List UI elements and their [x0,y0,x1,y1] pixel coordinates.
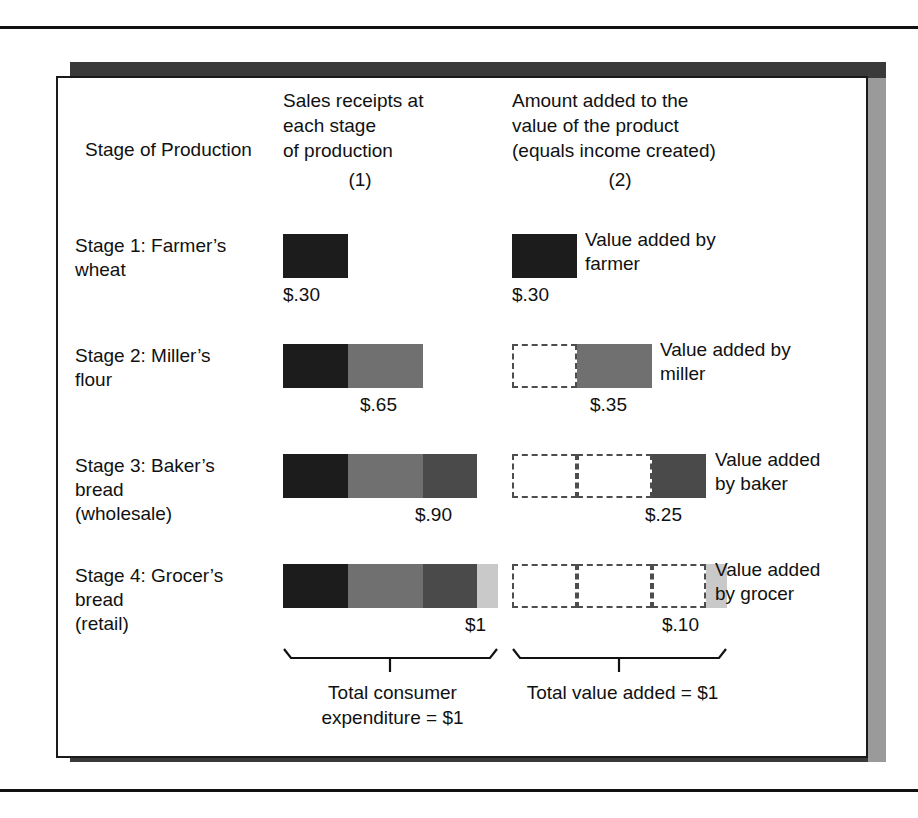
segment-placeholder-baker [652,564,706,608]
segment-grocer [477,564,499,608]
segment-placeholder-miller [577,564,652,608]
legend-baker: Value added by baker [715,448,820,496]
receipts-bar-stage-4 [283,564,498,608]
segment-farmer [283,234,348,278]
legend-farmer: Value added by farmer [585,228,716,276]
receipts-bar-stage-1 [283,234,498,278]
value-added-amount-stage-1: $.30 [512,284,549,306]
stage-label: Stage 4: Grocer’s bread (retail) [75,564,275,636]
stage-row: Stage 1: Farmer’s wheat $.30 $.30 Value … [0,228,918,328]
legend-grocer: Value added by grocer [715,558,820,606]
segment-miller [348,564,423,608]
total-value-added-label: Total value added = $1 [495,680,750,705]
header-column-1: Sales receipts at each stage of producti… [283,88,423,163]
brace-total-consumer-expenditure [283,648,498,674]
receipts-amount-stage-1: $.30 [283,284,320,306]
brace-total-value-added [512,648,727,674]
segment-placeholder-farmer [512,454,577,498]
segment-placeholder-farmer [512,564,577,608]
segment-farmer [283,454,348,498]
receipts-amount-stage-4: $1 [465,614,486,636]
segment-miller [348,344,423,388]
stage-label: Stage 3: Baker’s bread (wholesale) [75,454,275,526]
stage-label: Stage 2: Miller’s flour [75,344,275,392]
header-stage-of-production: Stage of Production [85,137,252,162]
legend-miller: Value added by miller [660,338,791,386]
receipts-amount-stage-3: $.90 [415,504,452,526]
segment-baker [423,454,477,498]
page-rule-bottom [0,789,918,792]
stage-row: Stage 2: Miller’s flour $.65 $.35 Value … [0,338,918,438]
header-column-1-number: (1) [285,167,435,192]
segment-placeholder-farmer [512,344,577,388]
segment-baker [423,564,477,608]
total-consumer-expenditure-label: Total consumer expenditure = $1 [265,680,520,730]
value-added-bar-stage-4 [512,564,727,608]
value-added-amount-stage-4: $.10 [662,614,699,636]
segment-farmer [512,234,577,278]
receipts-bar-stage-2 [283,344,498,388]
value-added-amount-stage-3: $.25 [645,504,682,526]
segment-farmer [283,344,348,388]
value-added-bar-stage-3 [512,454,727,498]
segment-miller [348,454,423,498]
value-added-amount-stage-2: $.35 [590,394,627,416]
receipts-amount-stage-2: $.65 [360,394,397,416]
page-rule-top [0,26,918,29]
segment-miller [577,344,652,388]
segment-farmer [283,564,348,608]
header-column-2: Amount added to the value of the product… [512,88,716,163]
stage-row: Stage 3: Baker’s bread (wholesale) $.90 … [0,448,918,558]
receipts-bar-stage-3 [283,454,498,498]
segment-placeholder-miller [577,454,652,498]
stage-label: Stage 1: Farmer’s wheat [75,234,275,282]
segment-baker [652,454,706,498]
header-column-2-number: (2) [545,167,695,192]
